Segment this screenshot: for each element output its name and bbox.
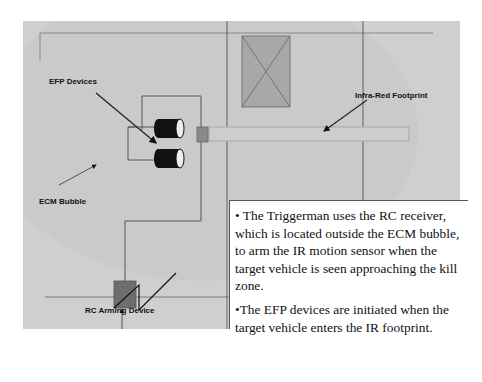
ir-footprint-beam <box>209 127 409 141</box>
target-vehicle-icon <box>242 36 290 107</box>
label-rc-arming-device: RC Arming Device <box>85 306 155 315</box>
efp-device-icon <box>154 119 184 138</box>
ir-sensor-icon <box>197 127 208 142</box>
efp-device-icon <box>154 149 184 168</box>
description-bullet-1: • The Triggerman uses the RC receiver, w… <box>235 207 462 295</box>
description-bullet-2: •The EFP devices are initiated when the … <box>235 301 462 336</box>
label-ecm-bubble: ECM Bubble <box>39 197 86 206</box>
label-infra-red-footprint: Infra-Red Footprint <box>355 91 427 100</box>
description-box: • The Triggerman uses the RC receiver, w… <box>229 200 468 329</box>
label-efp-devices: EFP Devices <box>49 77 97 86</box>
